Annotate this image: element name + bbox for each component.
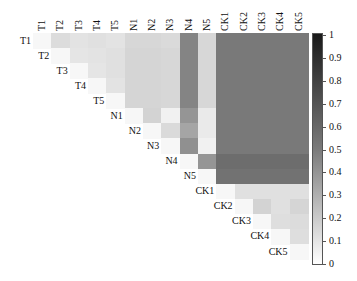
column-label: N4: [184, 19, 194, 31]
heatmap-cell: [253, 108, 272, 124]
row-label: T2: [9, 51, 49, 61]
heatmap-cell: [125, 93, 144, 109]
heatmap-cell: [180, 33, 199, 49]
row-label: N5: [156, 171, 196, 181]
heatmap-cell: [253, 199, 272, 215]
heatmap-cell: [180, 78, 199, 94]
heatmap-cell: [88, 48, 107, 64]
heatmap-cell: [198, 93, 217, 109]
heatmap-cell: [143, 48, 162, 64]
heatmap-cell: [235, 123, 254, 139]
heatmap-cell: [290, 108, 309, 124]
heatmap-cell: [290, 229, 309, 245]
column-label: T3: [74, 20, 84, 31]
heatmap-cell: [290, 48, 309, 64]
heatmap-cell: [235, 199, 254, 215]
colorbar-tick-label: 0.6: [329, 122, 342, 132]
heatmap-cell: [198, 169, 217, 185]
row-label: N3: [119, 141, 159, 151]
heatmap-cell: [216, 154, 235, 170]
heatmap-cell: [290, 138, 309, 154]
heatmap-cell: [253, 169, 272, 185]
heatmap-cell: [271, 108, 290, 124]
heatmap-cell: [198, 78, 217, 94]
colorbar-tick-mark: [323, 172, 326, 173]
heatmap-cell: [253, 78, 272, 94]
heatmap-cell: [253, 184, 272, 200]
heatmap-cell: [235, 63, 254, 79]
heatmap-cell: [216, 123, 235, 139]
heatmap-cell: [271, 123, 290, 139]
heatmap-cell: [180, 63, 199, 79]
column-label: N1: [129, 19, 139, 31]
colorbar-tick-mark: [323, 195, 326, 196]
heatmap-cell: [198, 48, 217, 64]
heatmap-cell: [253, 214, 272, 230]
heatmap-cell: [271, 169, 290, 185]
heatmap-cell: [253, 93, 272, 109]
heatmap-cell: [235, 169, 254, 185]
heatmap-cell: [235, 48, 254, 64]
heatmap-cell: [235, 184, 254, 200]
column-label: CK2: [239, 12, 249, 31]
heatmap-cell: [216, 93, 235, 109]
heatmap-cell: [216, 78, 235, 94]
column-label: T1: [37, 20, 47, 31]
row-label: CK3: [211, 216, 251, 226]
heatmap-cell: [235, 78, 254, 94]
colorbar-tick-label: 0: [329, 259, 334, 269]
row-label: T5: [64, 96, 104, 106]
heatmap-cell: [161, 63, 180, 79]
heatmap-cell: [125, 78, 144, 94]
heatmap-cell: [106, 93, 125, 109]
heatmap-cell: [106, 78, 125, 94]
heatmap-cell: [235, 93, 254, 109]
heatmap-cell: [253, 138, 272, 154]
heatmap-cell: [290, 63, 309, 79]
heatmap-cell: [125, 48, 144, 64]
heatmap-cell: [180, 123, 199, 139]
heatmap-cell: [290, 169, 309, 185]
heatmap-cell: [161, 93, 180, 109]
heatmap-cell: [271, 154, 290, 170]
heatmap-cell: [180, 48, 199, 64]
colorbar-tick-label: 0.4: [329, 167, 342, 177]
heatmap-cell: [161, 78, 180, 94]
heatmap-cell: [143, 108, 162, 124]
heatmap-cell: [253, 48, 272, 64]
heatmap-cell: [143, 63, 162, 79]
heatmap-cell: [51, 48, 70, 64]
colorbar-tick-mark: [323, 241, 326, 242]
heatmap-cell: [271, 33, 290, 49]
row-label: CK1: [174, 186, 214, 196]
heatmap-cell: [88, 78, 107, 94]
heatmap-cell: [70, 63, 89, 79]
column-label: CK1: [220, 12, 230, 31]
column-label: T4: [92, 20, 102, 31]
heatmap-chart: T1T2T3T4T5N1N2N3N4N5CK1CK2CK3CK4CK5 T1T2…: [0, 0, 357, 281]
column-label: CK3: [257, 12, 267, 31]
colorbar-tick-mark: [323, 264, 326, 265]
heatmap-cell: [271, 78, 290, 94]
heatmap-cell: [70, 33, 89, 49]
heatmap-cell: [70, 48, 89, 64]
heatmap-cell: [33, 33, 52, 49]
heatmap-cell: [106, 33, 125, 49]
column-label: T2: [55, 20, 65, 31]
heatmap-cell: [198, 154, 217, 170]
heatmap-cell: [88, 33, 107, 49]
row-label: CK4: [229, 231, 269, 241]
column-label: N2: [147, 19, 157, 31]
heatmap-cell: [180, 93, 199, 109]
heatmap-cell: [271, 184, 290, 200]
colorbar-tick-mark: [323, 104, 326, 105]
heatmap-cell: [161, 108, 180, 124]
heatmap-cell: [143, 93, 162, 109]
heatmap-cell: [235, 138, 254, 154]
heatmap-cell: [88, 63, 107, 79]
heatmap-cell: [198, 33, 217, 49]
row-label: T1: [0, 36, 31, 46]
heatmap-cell: [125, 108, 144, 124]
column-label: N5: [202, 19, 212, 31]
heatmap-cell: [290, 123, 309, 139]
